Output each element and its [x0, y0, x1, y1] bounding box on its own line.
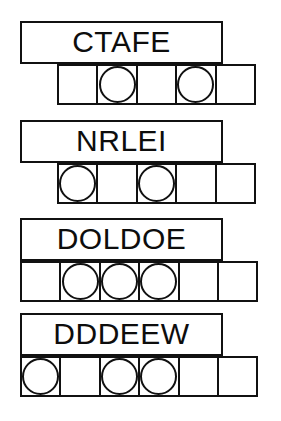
answer-cell-row-3	[20, 261, 258, 302]
circle-marker-icon	[140, 263, 177, 300]
circle-marker-icon	[62, 263, 99, 300]
circle-marker-icon	[177, 66, 214, 103]
answer-cell[interactable]	[99, 356, 140, 397]
answer-cell-row-1	[57, 64, 256, 105]
answer-cell[interactable]	[217, 261, 258, 302]
scrambled-word-box-1: CTAFE	[20, 21, 223, 64]
scrambled-word-box-3: DOLDOE	[20, 218, 223, 261]
answer-cell[interactable]	[215, 64, 256, 105]
answer-cell[interactable]	[136, 163, 177, 204]
circle-marker-icon	[22, 358, 59, 395]
answer-cell[interactable]	[215, 163, 256, 204]
answer-cell[interactable]	[57, 64, 98, 105]
circle-marker-icon	[99, 66, 136, 103]
answer-cell[interactable]	[217, 356, 258, 397]
answer-cell[interactable]	[178, 261, 219, 302]
answer-cell-row-4	[20, 356, 258, 397]
scrambled-word-text-3: DOLDOE	[57, 224, 187, 254]
answer-cell[interactable]	[57, 163, 98, 204]
scrambled-word-box-4: DDDEEW	[20, 313, 223, 356]
answer-cell[interactable]	[99, 261, 140, 302]
scrambled-word-text-4: DDDEEW	[53, 319, 189, 349]
circle-marker-icon	[101, 263, 138, 300]
circle-marker-icon	[138, 165, 175, 202]
answer-cell[interactable]	[59, 261, 100, 302]
answer-cell[interactable]	[138, 261, 179, 302]
circle-marker-icon	[59, 165, 96, 202]
answer-cell[interactable]	[138, 356, 179, 397]
answer-cell[interactable]	[175, 163, 216, 204]
answer-cell[interactable]	[175, 64, 216, 105]
answer-cell[interactable]	[136, 64, 177, 105]
scrambled-word-box-2: NRLEI	[20, 120, 223, 163]
scrambled-word-text-1: CTAFE	[72, 27, 171, 57]
circle-marker-icon	[101, 358, 138, 395]
circle-marker-icon	[140, 358, 177, 395]
answer-cell[interactable]	[96, 64, 137, 105]
answer-cell[interactable]	[20, 356, 61, 397]
answer-cell[interactable]	[59, 356, 100, 397]
answer-cell[interactable]	[20, 261, 61, 302]
word-scramble-worksheet: CTAFE NRLEI DOLDOE	[0, 0, 281, 421]
answer-cell[interactable]	[178, 356, 219, 397]
answer-cell-row-2	[57, 163, 256, 204]
scrambled-word-text-2: NRLEI	[76, 126, 167, 156]
answer-cell[interactable]	[96, 163, 137, 204]
